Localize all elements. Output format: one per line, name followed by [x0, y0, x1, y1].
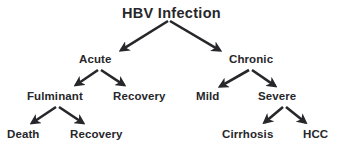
edge-acute-to-recovery-a	[101, 70, 124, 85]
arrow-layer	[0, 0, 337, 152]
node-mild: Mild	[196, 91, 219, 103]
edge-root-to-acute	[121, 21, 168, 50]
node-chronic: Chronic	[229, 54, 273, 66]
node-recovery-fulminant: Recovery	[70, 129, 123, 141]
edge-root-to-chronic	[170, 21, 220, 50]
node-acute: Acute	[79, 54, 111, 66]
edge-severe-to-hcc	[286, 107, 305, 123]
node-cirrhosis: Cirrhosis	[222, 129, 273, 141]
edge-severe-to-cirrhosis	[265, 107, 283, 122]
edge-chronic-to-mild	[220, 70, 249, 86]
edge-acute-to-fulminant	[76, 70, 98, 85]
edge-fulminant-to-death	[32, 107, 56, 123]
hbv-infection-flowchart: HBV Infection Acute Chronic Fulminant Re…	[0, 0, 337, 152]
edge-chronic-to-severe	[252, 70, 275, 86]
node-death: Death	[7, 129, 39, 141]
node-severe: Severe	[258, 91, 296, 103]
node-recovery-acute: Recovery	[113, 91, 166, 103]
node-hbv-infection: HBV Infection	[122, 6, 221, 21]
node-hcc: HCC	[303, 129, 328, 141]
node-fulminant: Fulminant	[27, 91, 83, 103]
edge-fulminant-to-recovery-f	[59, 107, 83, 123]
